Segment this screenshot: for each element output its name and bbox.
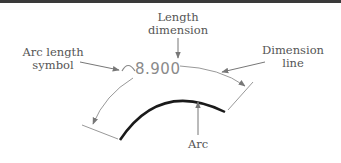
label-length-dimension: Length dimension — [148, 11, 208, 37]
arc-curve — [120, 101, 225, 140]
label-arc-length-symbol: Arc length symbol — [20, 46, 86, 72]
label-line-2: dimension — [148, 24, 208, 37]
dimension-line-left — [93, 78, 133, 124]
label-dimension-line: Dimension line — [258, 44, 328, 70]
arc-length-symbol-icon — [122, 66, 135, 72]
extension-line-left — [82, 125, 118, 139]
dimension-value: 8.900 — [135, 60, 180, 78]
label-line-2: symbol — [20, 59, 86, 72]
label-arc: Arc — [182, 138, 214, 151]
label-line-2: line — [258, 57, 328, 70]
extension-line-right — [228, 82, 253, 110]
